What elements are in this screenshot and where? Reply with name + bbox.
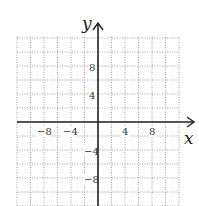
x-tick-label: −4 (63, 126, 78, 137)
y-tick-label: 8 (89, 62, 95, 73)
coordinate-plane: x y −8 −4 4 8 8 4 −4 −8 (0, 0, 199, 206)
y-axis-label: y (81, 13, 92, 33)
x-tick-label: 4 (122, 126, 128, 137)
y-tick-label: 4 (89, 90, 95, 101)
y-tick-label: −4 (84, 146, 99, 157)
x-tick-label: −8 (37, 126, 52, 137)
x-axis-label: x (184, 128, 194, 148)
y-tick-label: −8 (84, 174, 99, 185)
x-tick-label: 8 (149, 126, 155, 137)
